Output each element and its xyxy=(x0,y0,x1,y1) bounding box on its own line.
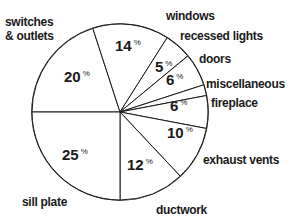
slice-label: miscellaneous xyxy=(206,77,285,91)
slice-label: exhaust vents xyxy=(203,153,280,167)
slice-label: ductwork xyxy=(156,203,208,217)
slice-label: doors xyxy=(199,52,231,66)
slice-label: switches& outlets xyxy=(5,15,54,43)
slice-label: fireplace xyxy=(211,96,258,110)
slice-label: recessed lights xyxy=(180,29,264,43)
slice-label: sill plate xyxy=(22,195,68,209)
pie-chart: switches& outlets20%windows14%recessed l… xyxy=(0,0,298,221)
slice-label: windows xyxy=(165,9,215,23)
